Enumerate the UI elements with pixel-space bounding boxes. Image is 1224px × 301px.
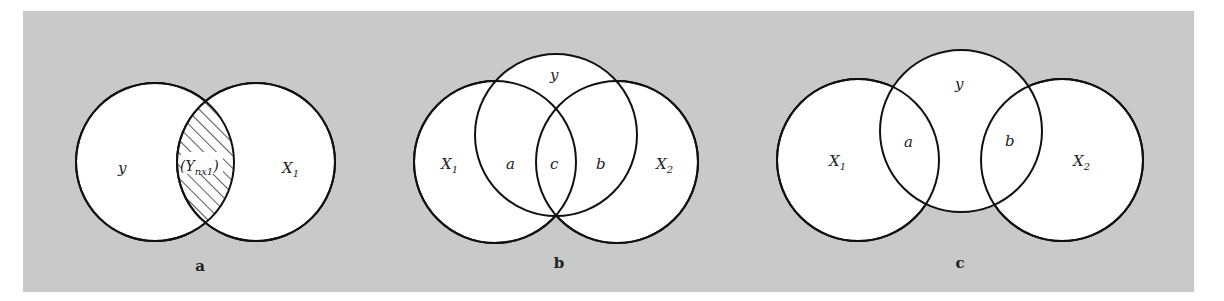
- venn-b: X1 y X2 a c b b: [414, 54, 698, 272]
- region-a: a: [904, 133, 913, 151]
- venn-a: y X1 (Ynx1) a: [76, 83, 335, 275]
- venn-diagrams: y X1 (Ynx1) a X1 y X2 a c b b X1 y X2 a …: [0, 0, 1224, 301]
- region-b: b: [1005, 132, 1015, 150]
- label-y: y: [954, 75, 964, 93]
- caption-c: c: [955, 254, 964, 272]
- venn-c: X1 y X2 a b c: [777, 50, 1143, 272]
- label-y: y: [549, 66, 559, 84]
- region-b: b: [596, 155, 606, 173]
- caption-b: b: [554, 254, 565, 272]
- region-a: a: [506, 155, 515, 173]
- caption-a: a: [195, 257, 205, 275]
- region-c: c: [550, 155, 559, 173]
- label-y: y: [117, 159, 127, 177]
